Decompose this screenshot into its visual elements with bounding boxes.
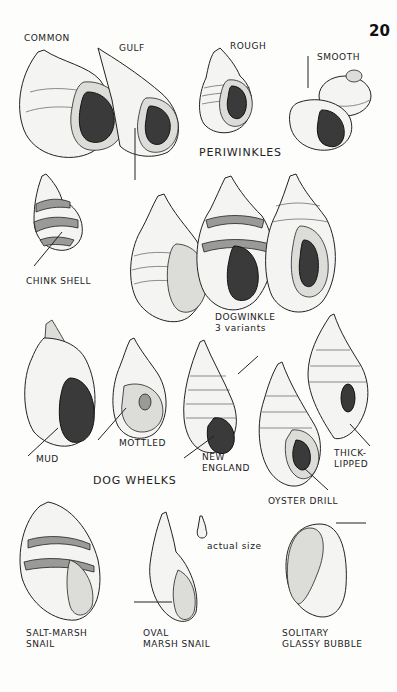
- label-new-england-2: ENGLAND: [202, 463, 250, 474]
- label-oval-marsh-2: MARSH SNAIL: [143, 639, 210, 650]
- dogwinkle-illustration: [131, 174, 336, 322]
- label-chink-shell: CHINK SHELL: [26, 276, 91, 287]
- label-mud: MUD: [36, 454, 59, 465]
- label-thick-lipped-2: LIPPED: [334, 459, 368, 470]
- label-solitary-2: GLASSY BUBBLE: [282, 639, 362, 650]
- label-salt-marsh-2: SNAIL: [26, 639, 55, 650]
- actual-size-snail-icon: [197, 516, 207, 538]
- thick-lipped-drill-illustration: [308, 314, 370, 446]
- group-title-dogwinkle: DOGWINKLE: [215, 312, 275, 323]
- page-number: 20: [369, 22, 390, 40]
- label-oval-marsh-1: OVAL: [143, 628, 169, 639]
- group-title-dog-whelks: DOG WHELKS: [93, 474, 177, 487]
- field-guide-page: 20 COMMON GULF ROUGH SMOOTH PERIWINKLES …: [0, 0, 397, 692]
- new-england-dog-whelk-illustration: [184, 340, 258, 458]
- chink-shell-illustration: [34, 174, 82, 266]
- label-mottled: MOTTLED: [119, 438, 166, 449]
- label-thick-lipped-1: THICK-: [334, 448, 366, 459]
- label-rough: ROUGH: [230, 41, 266, 52]
- rough-periwinkle-illustration: [200, 48, 253, 133]
- mud-dog-whelk-illustration: [25, 320, 95, 456]
- salt-marsh-snail-illustration: [20, 502, 100, 620]
- label-smooth: SMOOTH: [317, 52, 360, 63]
- mottled-dog-whelk-illustration: [98, 338, 166, 440]
- label-common: COMMON: [24, 33, 70, 44]
- label-new-england-1: NEW: [202, 452, 225, 463]
- oval-marsh-snail-illustration: [134, 512, 197, 621]
- shell-illustrations: [0, 0, 397, 692]
- solitary-glassy-bubble-illustration: [286, 523, 366, 617]
- label-actual-size: actual size: [207, 541, 262, 551]
- dogwinkle-note: 3 variants: [215, 323, 266, 333]
- label-gulf: GULF: [119, 43, 145, 54]
- label-salt-marsh-1: SALT-MARSH: [26, 628, 87, 639]
- smooth-periwinkle-illustration: [289, 56, 371, 150]
- label-solitary-1: SOLITARY: [282, 628, 329, 639]
- group-title-periwinkles: PERIWINKLES: [199, 146, 282, 159]
- label-oyster-drill: OYSTER DRILL: [268, 496, 338, 507]
